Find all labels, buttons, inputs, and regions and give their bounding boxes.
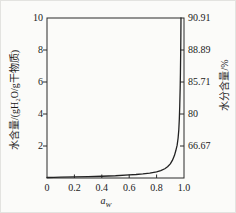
x-tick-label: 0.6 bbox=[123, 183, 136, 193]
y-right-tick-label: 80 bbox=[188, 109, 198, 119]
y-right-tick-label: 90.91 bbox=[188, 13, 211, 23]
x-tick-label: 0.8 bbox=[150, 183, 163, 193]
y-right-tick-label: 88.89 bbox=[188, 45, 211, 55]
plot-frame bbox=[47, 18, 184, 178]
x-tick-label: 0 bbox=[45, 183, 50, 193]
isotherm-plot bbox=[0, 0, 236, 213]
y-left-tick-label: 10 bbox=[0, 13, 43, 23]
x-tick-label: 1.0 bbox=[178, 183, 191, 193]
x-tick-label: 0.2 bbox=[68, 183, 81, 193]
x-tick-label: 0.4 bbox=[96, 183, 109, 193]
x-axis-title: aW bbox=[101, 195, 112, 211]
y-right-tick-label: 66.67 bbox=[188, 141, 211, 151]
x-axis-title-sub: W bbox=[106, 201, 112, 209]
figure-page: 水含量/(gH₂O/g干物质) 水分含量/% aW 24681066.67808… bbox=[0, 0, 236, 213]
y-right-tick-label: 85.71 bbox=[188, 77, 211, 87]
y-left-tick-label: 6 bbox=[0, 77, 43, 87]
y-axis-left-title: 水含量/(gH₂O/g干物质) bbox=[9, 50, 20, 150]
sorption-isotherm-curve bbox=[47, 18, 181, 178]
y-left-tick-label: 2 bbox=[0, 141, 43, 151]
y-left-tick-label: 4 bbox=[0, 109, 43, 119]
y-axis-right-title: 水分含量/% bbox=[219, 59, 230, 110]
y-left-tick-label: 8 bbox=[0, 45, 43, 55]
